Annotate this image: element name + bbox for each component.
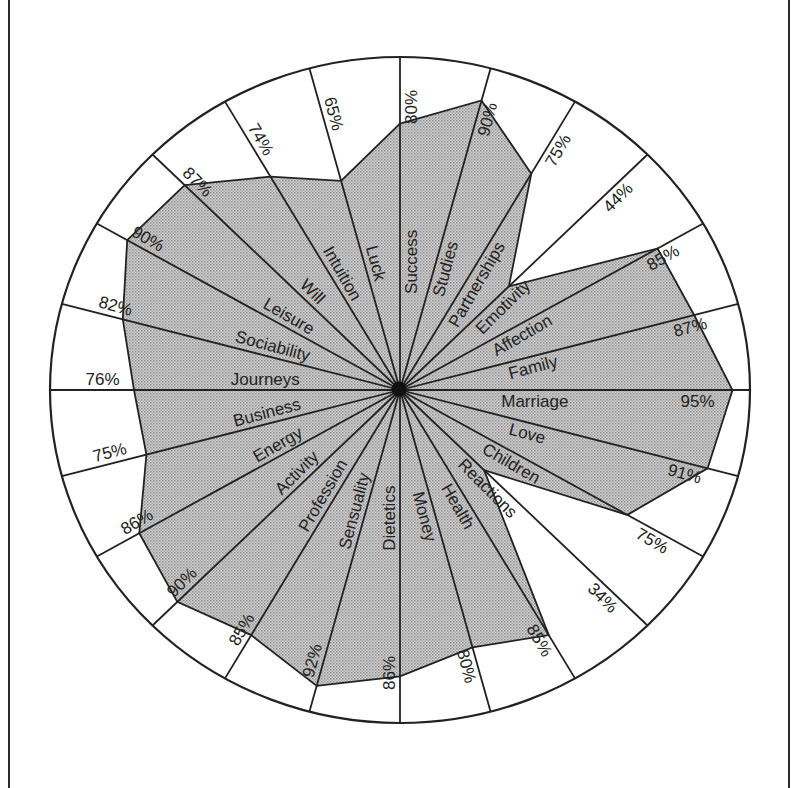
value-label-success: 80% xyxy=(402,90,421,124)
value-label-dietetics: 86% xyxy=(380,656,399,690)
value-label-health: 85% xyxy=(522,621,555,660)
value-label-business: 75% xyxy=(91,439,129,466)
radar-chart: SuccessStudiesPartnershipsEmotivityAffec… xyxy=(0,0,793,788)
value-label-reactions: 34% xyxy=(584,579,621,616)
category-label-dietetics: Dietetics xyxy=(380,486,399,551)
category-label-success: Success xyxy=(402,230,421,294)
value-label-emotivity: 44% xyxy=(599,179,636,216)
value-label-money: 80% xyxy=(453,647,480,685)
value-label-intuition: 74% xyxy=(244,120,277,159)
category-label-journeys: Journeys xyxy=(231,370,300,389)
value-label-marriage: 95% xyxy=(680,392,714,411)
value-label-journeys: 76% xyxy=(85,370,119,389)
value-label-partnerships: 75% xyxy=(542,131,575,170)
category-label-marriage: Marriage xyxy=(501,392,568,411)
value-label-children: 75% xyxy=(633,524,672,557)
value-label-luck: 65% xyxy=(320,95,347,133)
center-hub xyxy=(392,382,407,397)
